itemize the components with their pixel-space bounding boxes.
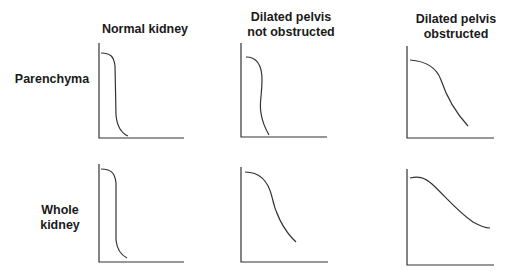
- curve: [246, 57, 269, 135]
- panel-parenchyma-normal: [99, 43, 184, 138]
- axes: [99, 164, 184, 262]
- curve: [410, 177, 490, 228]
- panel-whole-kidney-dilated-obstructed: [407, 169, 494, 265]
- curve: [245, 172, 296, 242]
- panel-parenchyma-dilated-obstructed: [407, 46, 494, 138]
- panel-parenchyma-dilated-not-obstructed: [241, 43, 327, 137]
- panel-whole-kidney-dilated-not-obstructed: [241, 167, 328, 262]
- curve: [410, 60, 468, 126]
- axes: [407, 169, 494, 265]
- renogram-panels: [0, 0, 510, 271]
- axes: [407, 46, 494, 138]
- panel-whole-kidney-normal: [99, 164, 184, 262]
- curve: [101, 53, 128, 136]
- axes: [241, 43, 327, 137]
- axes: [241, 167, 328, 262]
- curve: [101, 169, 127, 258]
